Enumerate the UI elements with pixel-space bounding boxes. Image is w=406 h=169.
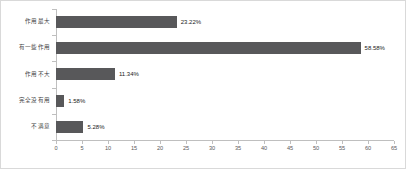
value-axis-tick [186,141,187,144]
bar[interactable] [56,121,83,133]
bar[interactable] [56,95,64,107]
category-label: 不满意 [31,124,50,130]
value-axis-tick-label: 10 [105,146,111,152]
bar-value-label: 11.34% [119,71,139,77]
bar[interactable] [56,16,177,28]
value-axis-tick [238,141,239,144]
value-axis-tick-label: 30 [209,146,215,152]
value-axis-tick [264,141,265,144]
value-axis-tick-label: 60 [365,146,371,152]
bar-value-label: 1.58% [68,98,85,104]
value-axis-tick [316,141,317,144]
value-axis-tick-label: 0 [54,146,57,152]
value-axis-tick [56,141,57,144]
value-axis-tick [134,141,135,144]
bar-row: 完全没有用1.58% [56,88,394,114]
value-axis-tick-label: 55 [339,146,345,152]
bar-row: 不满意5.28% [56,114,394,140]
value-axis-tick-label: 15 [131,146,137,152]
value-axis-tick [212,141,213,144]
value-axis-tick [108,141,109,144]
bar-value-label: 58.58% [365,45,385,51]
chart-container: 作用最大23.22%有一些作用58.58%作用不大11.34%完全没有用1.58… [0,0,406,169]
bar[interactable] [56,42,361,54]
value-axis-tick [82,141,83,144]
value-axis-tick [368,141,369,144]
value-axis-tick [394,141,395,144]
value-axis-tick-label: 40 [261,146,267,152]
value-axis-tick-label: 20 [157,146,163,152]
value-axis-tick [290,141,291,144]
category-label: 作用不大 [25,72,50,78]
category-label: 有一些作用 [19,45,50,51]
value-axis-tick-label: 5 [80,146,83,152]
value-axis-tick [342,141,343,144]
bar[interactable] [56,68,115,80]
value-axis-tick-label: 35 [235,146,241,152]
value-axis-tick-label: 25 [183,146,189,152]
bar-row: 有一些作用58.58% [56,35,394,61]
bar-row: 作用不大11.34% [56,61,394,87]
value-axis-tick [160,141,161,144]
value-axis-tick-label: 50 [313,146,319,152]
bar-value-label: 23.22% [181,19,201,25]
bar-value-label: 5.28% [87,124,104,130]
category-label: 作用最大 [25,19,50,25]
value-axis-line [56,140,394,141]
value-axis-tick-label: 65 [391,146,397,152]
bar-row: 作用最大23.22% [56,9,394,35]
category-label: 完全没有用 [19,98,50,104]
value-axis-tick-label: 45 [287,146,293,152]
